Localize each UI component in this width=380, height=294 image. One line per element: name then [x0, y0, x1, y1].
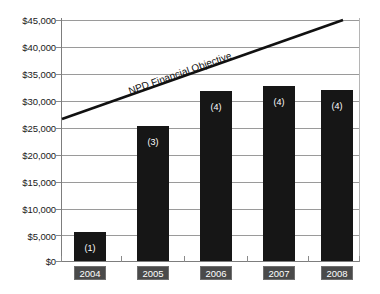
x-tick-5: [359, 256, 360, 262]
y-axis-line: [61, 18, 62, 262]
bar-label-2006: (4): [200, 102, 232, 112]
y-axis-label-40000: $40,000: [0, 42, 56, 53]
bar-label-2005: (3): [137, 137, 169, 147]
gridline-40000: [61, 47, 360, 48]
bar-2007: [263, 86, 295, 261]
bar-2008: [321, 90, 353, 261]
x-tick-1: [121, 256, 122, 262]
y-axis-label-5000: $5,000: [0, 231, 56, 242]
y-axis-label-10000: $10,000: [0, 204, 56, 215]
gridline-45000: [61, 20, 360, 21]
x-tick-4: [308, 256, 309, 262]
x-tick-3: [247, 256, 248, 262]
y-axis-label-20000: $20,000: [0, 150, 56, 161]
bar-label-2004: (1): [74, 243, 106, 253]
gridline-35000: [61, 74, 360, 75]
x-axis-label-2005: 2005: [137, 266, 169, 280]
y-axis-label-30000: $30,000: [0, 96, 56, 107]
x-axis-label-2008: 2008: [321, 266, 353, 280]
x-axis-label-2007: 2007: [263, 266, 295, 280]
y-axis-label-0: $0: [0, 256, 56, 267]
x-axis-line: [61, 261, 360, 262]
bar-2006: [200, 91, 232, 261]
bar-label-2008: (4): [321, 101, 353, 111]
chart-container: $45,000 $40,000 $35,000 $30,000 $25,000 …: [0, 0, 380, 294]
x-tick-0: [61, 256, 62, 262]
x-tick-2: [184, 256, 185, 262]
y-axis-label-25000: $25,000: [0, 123, 56, 134]
x-axis-label-2004: 2004: [74, 266, 106, 280]
x-axis-label-2006: 2006: [200, 266, 232, 280]
y-axis-label-15000: $15,000: [0, 177, 56, 188]
bar-label-2007: (4): [263, 97, 295, 107]
y-axis-label-45000: $45,000: [0, 15, 56, 26]
plot-right-border: [359, 18, 360, 262]
y-axis-label-35000: $35,000: [0, 69, 56, 80]
